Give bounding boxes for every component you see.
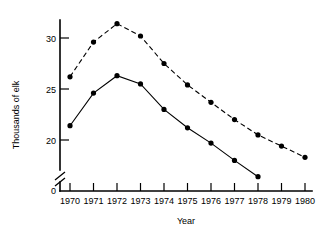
series-lower-solid-line <box>70 76 258 177</box>
data-point-lower-solid-1976 <box>208 141 213 146</box>
x-tick-label-1970: 1970 <box>60 196 80 206</box>
x-axis-title: Year <box>177 216 195 226</box>
elk-population-line-chart: Thousands of elk Year 30 25 20 0 1970197… <box>0 0 324 240</box>
y-axis-title: Thousands of elk <box>11 80 21 149</box>
data-point-upper-dashed-1973 <box>138 33 143 38</box>
data-point-upper-dashed-1978 <box>255 132 260 137</box>
x-tick-label-1978: 1978 <box>248 196 268 206</box>
series-upper-dashed-markers <box>67 21 307 160</box>
data-point-lower-solid-1970 <box>67 123 72 128</box>
data-point-upper-dashed-1975 <box>185 82 190 87</box>
data-point-upper-dashed-1974 <box>161 61 166 66</box>
data-point-lower-solid-1973 <box>138 81 143 86</box>
y-tick-label-25: 25 <box>46 85 56 95</box>
data-point-upper-dashed-1972 <box>114 21 119 26</box>
data-point-upper-dashed-1979 <box>279 144 284 149</box>
x-tick-label-1974: 1974 <box>154 196 174 206</box>
x-tick-label-1975: 1975 <box>177 196 197 206</box>
data-point-upper-dashed-1980 <box>302 155 307 160</box>
y-tick-label-20: 20 <box>46 136 56 146</box>
data-point-lower-solid-1971 <box>91 91 96 96</box>
x-tick-label-1976: 1976 <box>201 196 221 206</box>
y-tick-label-30: 30 <box>46 34 56 44</box>
x-tick-label-1979: 1979 <box>271 196 291 206</box>
data-point-lower-solid-1977 <box>232 158 237 163</box>
y-tick-label-0: 0 <box>51 186 56 196</box>
data-point-upper-dashed-1977 <box>232 117 237 122</box>
data-point-upper-dashed-1971 <box>91 40 96 45</box>
x-tick-label-1973: 1973 <box>130 196 150 206</box>
data-point-lower-solid-1974 <box>161 107 166 112</box>
series-upper-dashed-line <box>70 24 305 158</box>
x-tick-label-1971: 1971 <box>83 196 103 206</box>
data-point-upper-dashed-1970 <box>67 74 72 79</box>
x-tick-label-1972: 1972 <box>107 196 127 206</box>
x-tick-label-1980: 1980 <box>295 196 315 206</box>
series-lower-solid-markers <box>67 73 260 179</box>
data-point-lower-solid-1972 <box>114 73 119 78</box>
data-point-lower-solid-1975 <box>185 125 190 130</box>
chart-canvas: Thousands of elk Year 30 25 20 0 1970197… <box>0 0 324 240</box>
y-axis-tick-labels: 30 25 20 0 <box>46 34 56 197</box>
x-tick-label-1977: 1977 <box>224 196 244 206</box>
data-point-upper-dashed-1976 <box>208 100 213 105</box>
x-axis-ticks <box>70 183 305 191</box>
data-point-lower-solid-1978 <box>255 174 260 179</box>
x-axis-tick-labels: 1970197119721973197419751976197719781979… <box>60 196 315 206</box>
